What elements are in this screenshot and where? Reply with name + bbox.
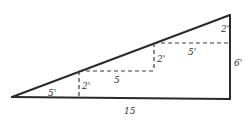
label-right-height: 6'	[234, 58, 242, 68]
base-line	[12, 97, 230, 99]
hypotenuse-line	[12, 15, 230, 97]
label-rise-1: 2'	[81, 81, 90, 91]
label-middle-run: 5	[114, 75, 120, 85]
label-rise-2: 2'	[156, 54, 165, 64]
label-top-run: 5'	[188, 47, 196, 57]
staircase-triangle-diagram: 5' 2' 5 2' 5' 2' 6' 15	[0, 0, 251, 125]
label-bottom-run: 5'	[48, 88, 56, 98]
label-base-length: 15	[124, 106, 136, 116]
label-rise-3: 2'	[220, 24, 229, 34]
